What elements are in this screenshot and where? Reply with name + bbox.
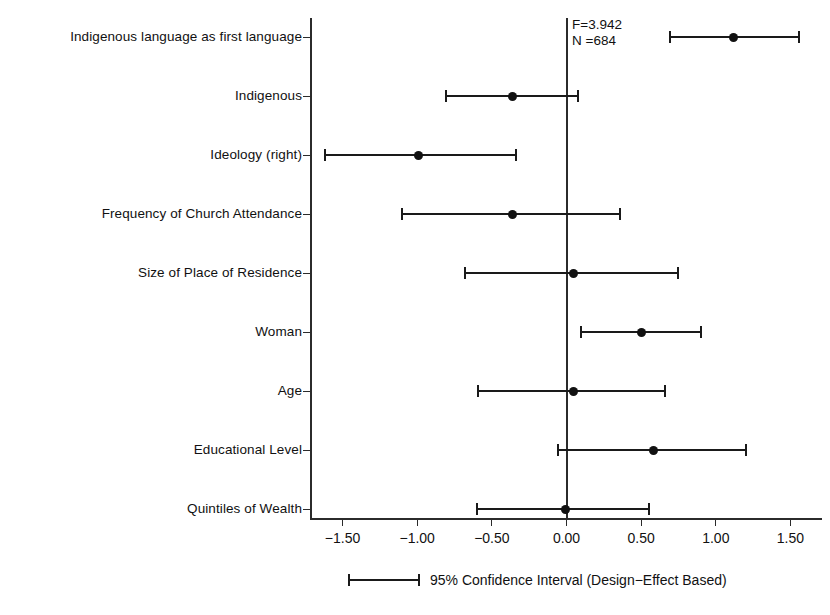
- ci-cap: [476, 503, 478, 515]
- category-label: Quintiles of Wealth: [10, 501, 302, 516]
- y-axis-tick: [303, 37, 311, 38]
- x-axis-tick: [641, 518, 642, 526]
- y-axis-line: [310, 18, 312, 518]
- category-label: Educational Level: [10, 442, 302, 457]
- y-axis-tick: [303, 391, 311, 392]
- sample-size-annotation: N =684: [572, 33, 616, 48]
- ci-cap: [669, 31, 671, 43]
- x-axis-tick-label: 1.50: [750, 530, 830, 546]
- ci-cap: [577, 90, 579, 102]
- zero-reference-line: [566, 18, 568, 518]
- estimate-marker: [414, 151, 423, 160]
- ci-cap: [557, 444, 559, 456]
- estimate-marker: [637, 328, 646, 337]
- y-axis-tick: [303, 509, 311, 510]
- category-label: Woman: [10, 324, 302, 339]
- estimate-marker: [508, 210, 517, 219]
- ci-cap: [648, 503, 650, 515]
- category-label: Frequency of Church Attendance: [10, 206, 302, 221]
- x-axis-tick: [491, 518, 492, 526]
- x-axis-tick-label: −0.50: [452, 530, 532, 546]
- x-axis-tick-label: 1.00: [676, 530, 756, 546]
- estimate-marker: [508, 92, 517, 101]
- x-axis-tick: [342, 518, 343, 526]
- ci-cap: [464, 267, 466, 279]
- category-label: Ideology (right): [10, 147, 302, 162]
- forest-plot: Indigenous language as first language In…: [0, 0, 830, 615]
- category-label: Indigenous: [10, 88, 302, 103]
- fstat-annotation: F=3.942: [572, 17, 622, 32]
- legend-interval-icon: [348, 579, 420, 581]
- x-axis-tick: [715, 518, 716, 526]
- ci-cap: [477, 385, 479, 397]
- y-axis-tick: [303, 96, 311, 97]
- estimate-marker: [649, 446, 658, 455]
- legend: 95% Confidence Interval (Design−Effect B…: [348, 572, 727, 588]
- y-axis-tick: [303, 214, 311, 215]
- x-axis-tick-label: 0.50: [601, 530, 681, 546]
- ci-cap: [798, 31, 800, 43]
- x-axis-tick-label: 0.00: [527, 530, 607, 546]
- y-axis-tick: [303, 450, 311, 451]
- estimate-marker: [569, 269, 578, 278]
- estimate-marker: [561, 505, 570, 514]
- ci-cap: [745, 444, 747, 456]
- x-axis-tick-label: −1.00: [377, 530, 457, 546]
- x-axis-tick-label: −1.50: [303, 530, 383, 546]
- ci-cap: [664, 385, 666, 397]
- x-axis-tick: [566, 518, 567, 526]
- ci-cap: [619, 208, 621, 220]
- ci-cap: [515, 149, 517, 161]
- estimate-marker: [729, 33, 738, 42]
- category-label: Indigenous language as first language: [10, 29, 302, 44]
- ci-cap: [580, 326, 582, 338]
- x-axis-tick: [417, 518, 418, 526]
- ci-cap: [700, 326, 702, 338]
- category-label: Size of Place of Residence: [10, 265, 302, 280]
- ci-cap: [445, 90, 447, 102]
- legend-label: 95% Confidence Interval (Design−Effect B…: [430, 572, 727, 588]
- ci-cap: [401, 208, 403, 220]
- ci-cap: [677, 267, 679, 279]
- estimate-marker: [569, 387, 578, 396]
- y-axis-tick: [303, 155, 311, 156]
- x-axis-tick: [790, 518, 791, 526]
- y-axis-tick: [303, 273, 311, 274]
- category-label: Age: [10, 383, 302, 398]
- y-axis-tick: [303, 332, 311, 333]
- ci-cap: [324, 149, 326, 161]
